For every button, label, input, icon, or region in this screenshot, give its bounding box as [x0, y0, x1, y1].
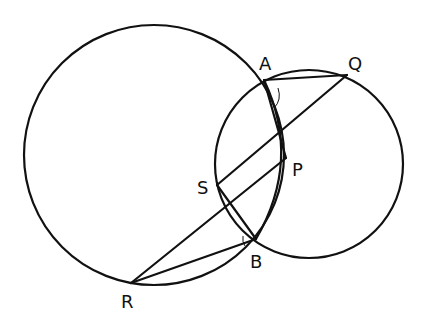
point-label-A: A [259, 53, 272, 74]
segment-RP [131, 158, 286, 283]
segment-AP [264, 80, 286, 158]
point-label-R: R [121, 291, 134, 312]
point-label-B: B [250, 251, 262, 272]
geometry-diagram: AQPSBR [0, 0, 422, 324]
point-label-Q: Q [348, 53, 362, 74]
point-label-S: S [197, 177, 208, 198]
segment-BR [131, 239, 256, 283]
segment-SB [217, 185, 256, 239]
point-label-P: P [292, 159, 303, 180]
segment-QS [217, 75, 347, 185]
